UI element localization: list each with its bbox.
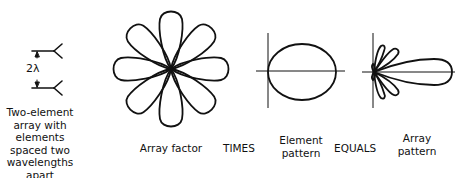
array-factor-caption: Array factor — [136, 142, 206, 155]
equals-operator: EQUALS — [334, 142, 376, 154]
array-pattern-graphic — [362, 33, 455, 108]
element-pattern-caption: Element pattern — [276, 134, 326, 159]
element-pattern-graphic — [256, 33, 345, 108]
array-factor-graphic — [114, 12, 229, 127]
times-operator: TIMES — [223, 142, 255, 154]
two-element-array-caption: Two-element array with elements spaced t… — [2, 106, 78, 178]
spacing-label: 2λ — [26, 63, 40, 76]
array-pattern-caption: Array pattern — [392, 132, 442, 157]
